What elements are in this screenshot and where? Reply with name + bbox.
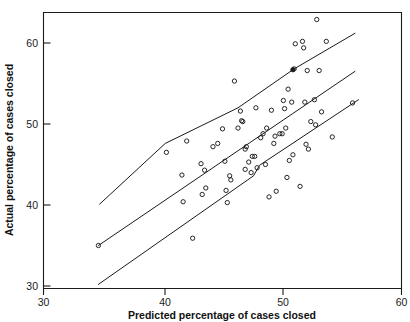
scatter-plot-figure: 60 50 40 30 30 40 50 60 Predicted percen…	[0, 0, 410, 322]
x-axis-title: Predicted percentage of cases closed	[128, 309, 316, 321]
y-tick-label-40: 40	[26, 199, 38, 211]
chart-background	[0, 0, 410, 322]
chart-canvas: 60 50 40 30 30 40 50 60 Predicted percen…	[0, 0, 410, 322]
y-tick-label-50: 50	[26, 118, 38, 130]
x-tick-label-60: 60	[396, 296, 408, 308]
y-tick-label-30: 30	[26, 280, 38, 292]
scatter-point-filled	[291, 68, 295, 72]
x-tick-label-40: 40	[159, 296, 171, 308]
y-axis-title: Actual percentage of cases closed	[3, 64, 15, 236]
x-tick-label-30: 30	[38, 296, 50, 308]
x-tick-label-50: 50	[277, 296, 289, 308]
y-tick-label-60: 60	[26, 37, 38, 49]
